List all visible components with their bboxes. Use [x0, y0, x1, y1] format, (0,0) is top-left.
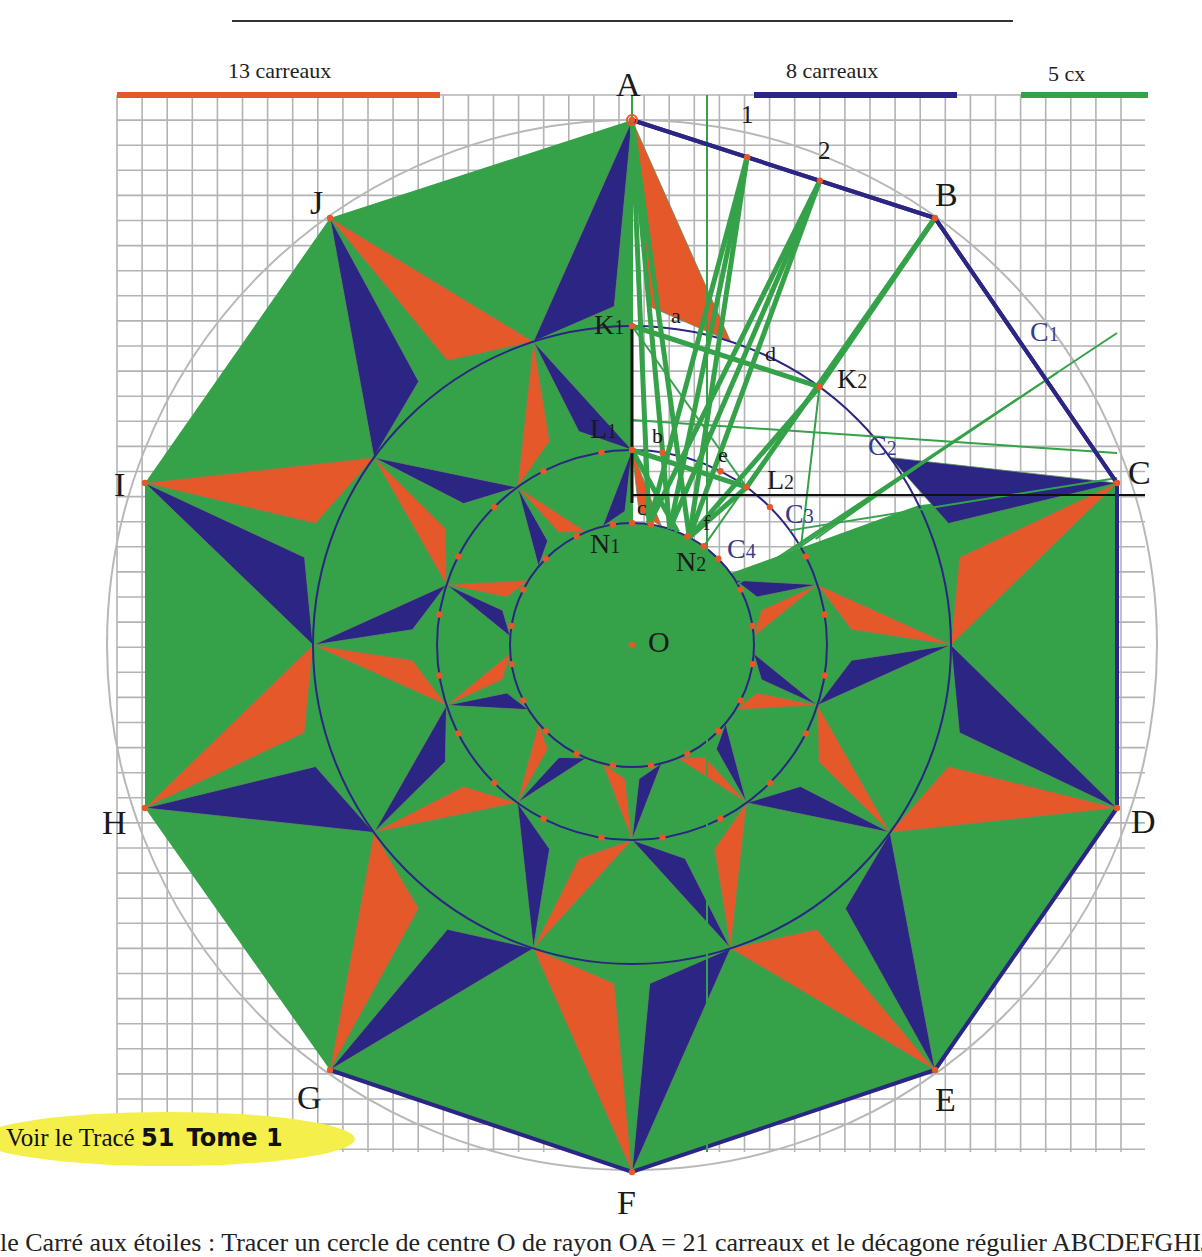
label-k1-main: K: [594, 309, 614, 340]
label-c-lower: c: [637, 497, 647, 519]
label-k2-main: K: [837, 363, 857, 394]
label-c4: C4: [727, 535, 756, 563]
label-n2-sub: 2: [696, 553, 706, 575]
label-c1-sub: 1: [1049, 323, 1059, 345]
callout-number: 51: [141, 1124, 174, 1152]
vertex-label-e: E: [935, 1083, 956, 1117]
vertex-label-f: F: [617, 1186, 636, 1220]
vertex-label-h: H: [102, 806, 127, 840]
label-c4-sub: 4: [746, 540, 756, 562]
vertex-label-i: I: [114, 468, 125, 502]
label-c2: C2: [868, 432, 897, 460]
label-l2-sub: 2: [784, 471, 794, 493]
vertex-label-a: A: [616, 68, 641, 102]
vertex-label-d: D: [1131, 805, 1156, 839]
scale-caption-13: 13 carreaux: [228, 58, 331, 84]
label-c3-main: C: [785, 498, 804, 529]
label-c3: C3: [785, 500, 814, 528]
callout-prefix: Voir le Tracé: [6, 1124, 135, 1151]
label-n2: N2: [676, 548, 706, 576]
label-e-lower: e: [718, 444, 728, 466]
scale-caption-8: 8 carreaux: [786, 58, 878, 84]
label-d-lower: d: [765, 343, 776, 365]
label-c2-main: C: [868, 430, 887, 461]
label-n1: N1: [590, 530, 620, 558]
label-l2-main: L: [767, 464, 784, 495]
diagram-canvas: [0, 0, 1202, 1257]
label-l1-sub: 1: [607, 420, 617, 442]
vertex-label-c: C: [1128, 456, 1151, 490]
label-l2: L2: [767, 466, 794, 494]
label-k1-sub: 1: [614, 316, 624, 338]
vertex-label-b: B: [935, 178, 958, 212]
label-n1-main: N: [590, 528, 610, 559]
vertex-label-g: G: [297, 1081, 322, 1115]
label-c2-sub: 2: [887, 437, 897, 459]
label-l1-main: L: [590, 413, 607, 444]
decagon-star-construction: [0, 0, 1202, 1257]
label-c3-sub: 3: [804, 505, 814, 527]
label-c4-main: C: [727, 533, 746, 564]
label-c1-main: C: [1030, 316, 1049, 347]
label-b-lower: b: [652, 425, 663, 447]
label-n2-main: N: [676, 546, 696, 577]
center-label-o: O: [648, 627, 670, 657]
label-n1-sub: 1: [610, 535, 620, 557]
label-k2-sub: 2: [857, 370, 867, 392]
label-l1: L1: [590, 415, 617, 443]
label-c1: C1: [1030, 318, 1059, 346]
label-k2: K2: [837, 365, 867, 393]
label-division-1: 1: [741, 102, 754, 127]
label-division-2: 2: [818, 138, 831, 163]
vertex-label-j: J: [310, 186, 323, 220]
label-f-lower: f: [703, 512, 710, 534]
callout-text: Voir le Tracé 51 Tome 1: [6, 1124, 283, 1152]
footer-instructions: le Carré aux étoiles : Tracer un cercle …: [0, 1228, 1202, 1257]
label-a-lower: a: [671, 305, 681, 327]
label-k1: K1: [594, 311, 624, 339]
scale-caption-5: 5 cx: [1048, 61, 1085, 87]
callout-tome: Tome 1: [187, 1124, 283, 1152]
